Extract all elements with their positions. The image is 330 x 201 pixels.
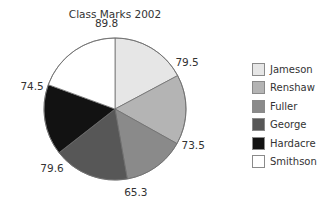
- legend-label: Fuller: [270, 101, 297, 112]
- legend-item-hardacre: Hardacre: [252, 136, 317, 150]
- legend-label: George: [270, 119, 306, 130]
- pie-slices: [44, 38, 186, 180]
- legend-swatch: [252, 137, 265, 150]
- legend-item-renshaw: Renshaw: [252, 81, 317, 95]
- slice-value-label: 79.5: [175, 56, 198, 68]
- legend: Jameson Renshaw Fuller George Hardacre S…: [252, 62, 317, 174]
- legend-item-george: George: [252, 118, 317, 132]
- legend-label: Smithson: [270, 156, 317, 167]
- legend-swatch: [252, 63, 265, 76]
- legend-label: Hardacre: [270, 138, 316, 149]
- legend-swatch: [252, 118, 265, 131]
- legend-swatch: [252, 81, 265, 94]
- slice-value-label: 79.6: [40, 162, 64, 174]
- legend-label: Jameson: [270, 64, 313, 75]
- slice-value-label: 65.3: [124, 186, 147, 198]
- legend-item-smithson: Smithson: [252, 155, 317, 169]
- legend-item-fuller: Fuller: [252, 99, 317, 113]
- legend-item-jameson: Jameson: [252, 62, 317, 76]
- legend-swatch: [252, 155, 265, 168]
- slice-value-label: 73.5: [182, 139, 205, 151]
- slice-value-label: 74.5: [20, 80, 43, 92]
- legend-swatch: [252, 100, 265, 113]
- legend-label: Renshaw: [270, 82, 315, 93]
- slice-value-label: 89.8: [95, 17, 118, 29]
